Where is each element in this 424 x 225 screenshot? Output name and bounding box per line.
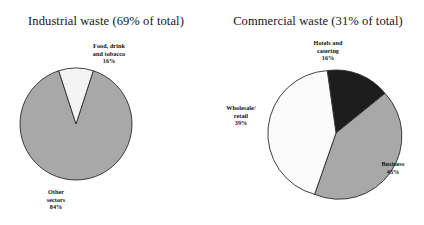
chart-panel-commercial-waste: Commercial waste (31% of total) Hotels a… — [212, 0, 424, 225]
pie-label-wholesale-line2: retail — [212, 112, 270, 120]
pie-label-other-value: 84% — [26, 203, 86, 211]
pie-label-business-line1: Business — [367, 160, 419, 168]
pie-label-food-line1: Food, drink — [72, 42, 146, 50]
pie-label-wholesale-retail: Wholesale/ retail 39% — [212, 104, 270, 127]
pie-chart-industrial-waste — [14, 58, 138, 190]
pie-label-business: Business 45% — [367, 160, 419, 175]
pie-label-other-line2: sectors — [26, 196, 86, 204]
pie-label-food-value: 16% — [72, 57, 146, 65]
pie-label-other-line1: Other — [26, 188, 86, 196]
chart-title-industrial-waste: Industrial waste (69% of total) — [0, 14, 212, 29]
pie-label-hotels-line2: catering — [296, 47, 360, 55]
pie-label-food-line2: and tobacco — [72, 50, 146, 58]
pie-label-food-drink-tobacco: Food, drink and tobacco 16% — [72, 42, 146, 65]
pie-label-hotels-catering: Hotels and catering 16% — [296, 39, 360, 62]
pie-label-other-sectors: Other sectors 84% — [26, 188, 86, 211]
pie-label-wholesale-line1: Wholesale/ — [212, 104, 270, 112]
chart-panel-industrial-waste: Industrial waste (69% of total) Food, dr… — [0, 0, 212, 225]
pie-label-hotels-value: 16% — [296, 54, 360, 62]
pie-chart-commercial-waste — [264, 60, 408, 208]
pie-label-hotels-line1: Hotels and — [296, 39, 360, 47]
pie-label-wholesale-value: 39% — [212, 119, 270, 127]
pie-label-business-value: 45% — [367, 168, 419, 176]
chart-title-commercial-waste: Commercial waste (31% of total) — [212, 14, 424, 29]
